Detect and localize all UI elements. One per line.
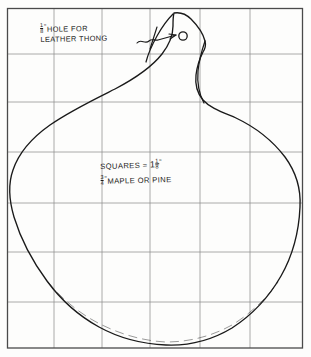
hole-note-text-1: HOLE FOR xyxy=(47,24,88,34)
annotation-hole-note: 1 8 ”HOLE FOR LEATHER THONG xyxy=(40,21,108,45)
material-text: MAPLE OR PINE xyxy=(107,175,172,186)
inch-mark: ” xyxy=(159,158,162,165)
hole-note-text-2: LEATHER THONG xyxy=(40,33,108,44)
squares-prefix: SQUARES = xyxy=(100,161,148,171)
material-note-line-1: SQUARES = 1 1 8 ” xyxy=(100,156,171,172)
pattern-sheet: 1 8 ”HOLE FOR LEATHER THONG SQUARES = 1 … xyxy=(0,0,311,357)
material-note-line-2: 3 4 ”MAPLE OR PINE xyxy=(100,171,171,187)
annotation-material-note: SQUARES = 1 1 8 ” 3 4 ”MAPLE OR PINE xyxy=(100,156,172,188)
